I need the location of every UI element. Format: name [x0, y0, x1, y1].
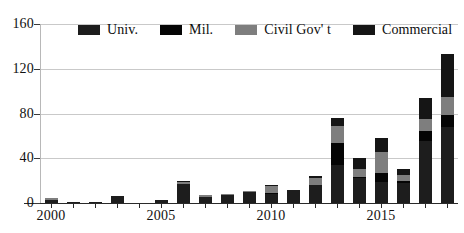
bar-2007[interactable]	[199, 195, 212, 203]
x-tick-mark-2018	[447, 203, 448, 208]
y-tick-label-120: 120	[12, 62, 34, 76]
bar-segment-commercial-2010	[265, 185, 278, 186]
bar-segment-commercial-2018	[441, 54, 454, 97]
bar-segment-civilgovt-2013	[331, 126, 344, 143]
stacked-bar-chart: 160 120 80 40 0 2000200520102015 Univ.Mi…	[0, 0, 464, 233]
bar-2018[interactable]	[441, 54, 454, 203]
bar-segment-univ-2010	[265, 194, 278, 203]
x-tick-mark-2007	[205, 203, 206, 208]
bar-segment-commercial-2014	[353, 158, 366, 169]
bar-segment-civilgovt-2000	[45, 198, 58, 199]
bar-segment-commercial-2006	[177, 181, 190, 182]
legend-label: Mil.	[189, 23, 213, 37]
bar-segment-mil-2016	[397, 181, 410, 183]
x-tick-mark-2009	[249, 203, 250, 208]
y-tick-mark-160	[34, 24, 40, 25]
y-tick-label-0: 0	[27, 196, 34, 210]
bar-segment-civilgovt-2009	[243, 191, 256, 192]
bar-segment-civilgovt-2015	[375, 152, 388, 173]
bar-segment-commercial-2016	[397, 169, 410, 175]
bar-segment-mil-2018	[441, 115, 454, 127]
legend-item-mil[interactable]: Mil.	[160, 23, 213, 37]
bar-2008[interactable]	[221, 194, 234, 203]
bar-segment-univ-2012	[309, 185, 322, 203]
bar-2009[interactable]	[243, 191, 256, 203]
x-tick-mark-2017	[425, 203, 426, 208]
bar-segment-univ-2008	[221, 195, 234, 203]
legend-swatch-icon	[160, 25, 182, 35]
bar-segment-univ-2009	[243, 192, 256, 203]
bar-segment-civilgovt-2010	[265, 186, 278, 193]
y-tick-label-80: 80	[20, 107, 34, 121]
bar-2006[interactable]	[177, 181, 190, 203]
bar-segment-commercial-2015	[375, 138, 388, 151]
y-tick-label-40: 40	[20, 151, 34, 165]
bar-segment-commercial-2012	[309, 176, 322, 178]
bar-2014[interactable]	[353, 158, 366, 203]
bar-segment-civilgovt-2012	[309, 178, 322, 185]
x-tick-mark-2001	[73, 203, 74, 208]
bar-segment-mil-2017	[419, 131, 432, 141]
bar-segment-civilgovt-2008	[221, 194, 234, 195]
x-axis-line	[24, 203, 458, 204]
legend-item-civilgovt[interactable]: Civil Gov' t	[235, 23, 331, 37]
bar-segment-commercial-2013	[331, 118, 344, 126]
bar-segment-univ-2016	[397, 183, 410, 203]
plot-area	[40, 24, 458, 203]
y-tick-label-160: 160	[12, 17, 34, 31]
bar-segment-univ-2013	[331, 165, 344, 203]
bar-segment-mil-2014	[353, 177, 366, 178]
legend: Univ.Mil.Civil Gov' tCommercial	[78, 21, 464, 39]
x-tick-mark-2008	[227, 203, 228, 208]
bar-2015[interactable]	[375, 138, 388, 203]
legend-item-univ[interactable]: Univ.	[78, 23, 138, 37]
bar-segment-univ-2017	[419, 141, 432, 203]
x-tick-mark-2012	[315, 203, 316, 208]
legend-item-commercial[interactable]: Commercial	[353, 23, 452, 37]
bar-segment-univ-2003	[111, 196, 124, 203]
legend-swatch-icon	[78, 25, 100, 35]
bars-layer	[40, 24, 458, 203]
x-tick-mark-2006	[183, 203, 184, 208]
bar-segment-civilgovt-2016	[397, 175, 410, 181]
x-tick-label-2015: 2015	[367, 208, 396, 224]
bar-2011[interactable]	[287, 190, 300, 203]
bar-2013[interactable]	[331, 118, 344, 203]
y-tick-mark-0	[34, 203, 40, 204]
x-tick-mark-2002	[95, 203, 96, 208]
y-tick-mark-120	[34, 69, 40, 70]
y-axis-labels: 160 120 80 40 0	[0, 0, 34, 233]
x-tick-mark-2011	[293, 203, 294, 208]
bar-segment-univ-2006	[177, 184, 190, 203]
bar-segment-mil-2010	[265, 193, 278, 194]
legend-swatch-icon	[235, 25, 257, 35]
bar-2017[interactable]	[419, 98, 432, 203]
bar-2003[interactable]	[111, 196, 124, 203]
y-tick-mark-80	[34, 114, 40, 115]
x-tick-label-2000: 2000	[37, 208, 66, 224]
legend-label: Univ.	[107, 23, 138, 37]
x-tick-label-2010: 2010	[257, 208, 286, 224]
bar-segment-civilgovt-2017	[419, 119, 432, 131]
bar-2012[interactable]	[309, 176, 322, 203]
bar-segment-mil-2015	[375, 173, 388, 182]
bar-segment-commercial-2017	[419, 98, 432, 119]
bar-segment-civilgovt-2014	[353, 169, 366, 177]
bar-segment-univ-2015	[375, 182, 388, 203]
x-tick-mark-2003	[117, 203, 118, 208]
y-tick-mark-40	[34, 158, 40, 159]
bar-segment-civilgovt-2006	[177, 182, 190, 184]
bar-segment-univ-2011	[287, 190, 300, 203]
x-tick-mark-2004	[139, 203, 140, 208]
x-tick-label-2005: 2005	[147, 208, 176, 224]
bar-segment-civilgovt-2018	[441, 97, 454, 115]
bar-segment-mil-2013	[331, 143, 344, 165]
x-tick-mark-2013	[337, 203, 338, 208]
bar-2016[interactable]	[397, 169, 410, 203]
bar-segment-univ-2014	[353, 178, 366, 203]
legend-label: Civil Gov' t	[264, 23, 331, 37]
y-axis-line	[40, 24, 41, 203]
bar-2010[interactable]	[265, 185, 278, 203]
bar-segment-univ-2018	[441, 127, 454, 203]
legend-label: Commercial	[382, 23, 452, 37]
